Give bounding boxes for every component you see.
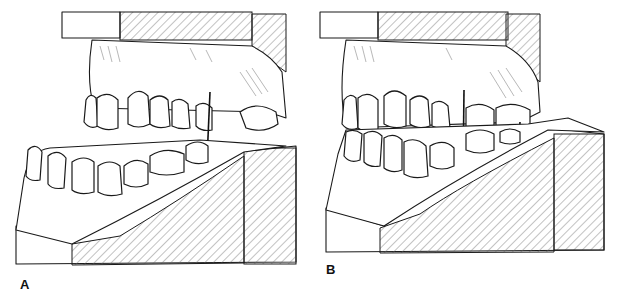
upper-base-left: [62, 12, 120, 38]
panel-label-a: A: [20, 277, 29, 292]
upper-base-hatched: [378, 12, 508, 40]
dental-casts-diagram: [0, 0, 619, 297]
upper-base-left: [320, 12, 378, 38]
panel-b: [320, 12, 604, 253]
upper-base-hatched: [120, 12, 252, 40]
panel-a: [16, 12, 296, 265]
lower-base-right: [244, 148, 296, 264]
panel-label-b: B: [326, 262, 335, 277]
lower-base-right: [554, 134, 604, 250]
